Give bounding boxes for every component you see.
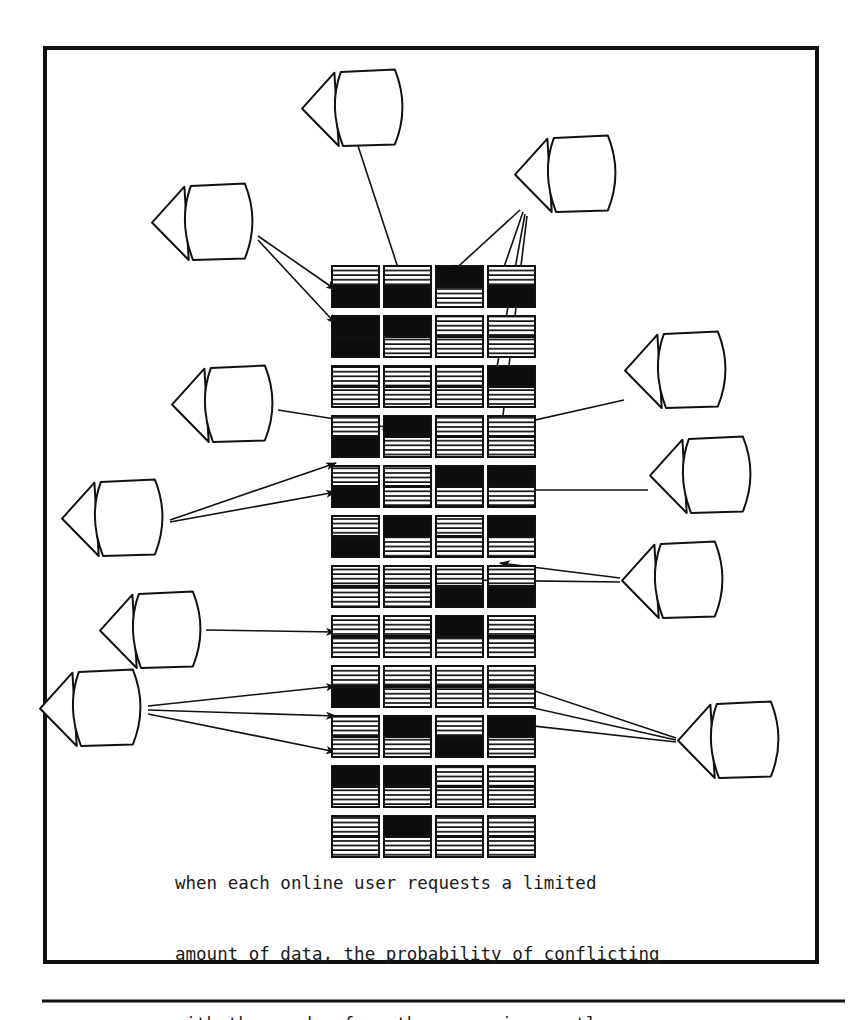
record-cell-r6c2[interactable] — [384, 387, 431, 407]
record-cell-r22c3[interactable] — [436, 787, 483, 807]
record-cell-r4c4[interactable] — [488, 337, 535, 357]
record-cell-r14c4[interactable] — [488, 587, 535, 607]
terminal-9[interactable] — [100, 592, 200, 668]
record-cell-r5c2[interactable] — [384, 366, 431, 386]
record-cell-r19c1[interactable] — [332, 716, 379, 736]
record-cell-r22c1[interactable] — [332, 787, 379, 807]
record-cell-r1c1[interactable] — [332, 266, 379, 286]
record-cell-r1c2[interactable] — [384, 266, 431, 286]
record-cell-r12c4[interactable] — [488, 537, 535, 557]
record-cell-r9c1[interactable] — [332, 466, 379, 486]
record-cell-r16c2[interactable] — [384, 637, 431, 657]
record-cell-r9c2[interactable] — [384, 466, 431, 486]
record-cell-r12c2[interactable] — [384, 537, 431, 557]
terminal-4[interactable] — [625, 332, 725, 408]
record-cell-r5c4[interactable] — [488, 366, 535, 386]
record-cell-r18c2[interactable] — [384, 687, 431, 707]
record-cell-r15c3[interactable] — [436, 616, 483, 636]
record-cell-r8c1[interactable] — [332, 437, 379, 457]
record-cell-r16c3[interactable] — [436, 637, 483, 657]
record-cell-r13c2[interactable] — [384, 566, 431, 586]
record-cell-r19c4[interactable] — [488, 716, 535, 736]
record-cell-r5c1[interactable] — [332, 366, 379, 386]
record-cell-r14c3[interactable] — [436, 587, 483, 607]
record-cell-r21c4[interactable] — [488, 766, 535, 786]
terminal-3[interactable] — [152, 184, 252, 260]
record-cell-r7c4[interactable] — [488, 416, 535, 436]
record-cell-r1c3[interactable] — [436, 266, 483, 286]
record-cell-r17c4[interactable] — [488, 666, 535, 686]
record-cell-r4c2[interactable] — [384, 337, 431, 357]
record-cell-r22c4[interactable] — [488, 787, 535, 807]
record-cell-r15c4[interactable] — [488, 616, 535, 636]
record-cell-r10c2[interactable] — [384, 487, 431, 507]
terminal-1[interactable] — [302, 70, 402, 146]
record-cell-r3c1[interactable] — [332, 316, 379, 336]
terminal-6[interactable] — [650, 437, 750, 513]
record-cell-r9c4[interactable] — [488, 466, 535, 486]
record-cell-r6c1[interactable] — [332, 387, 379, 407]
terminal-2[interactable] — [515, 136, 615, 212]
record-cell-r20c4[interactable] — [488, 737, 535, 757]
record-cell-r18c4[interactable] — [488, 687, 535, 707]
record-cell-r4c3[interactable] — [436, 337, 483, 357]
terminal-5[interactable] — [172, 366, 272, 442]
record-cell-r7c3[interactable] — [436, 416, 483, 436]
record-cell-r1c4[interactable] — [488, 266, 535, 286]
record-cell-r13c1[interactable] — [332, 566, 379, 586]
record-cell-r10c1[interactable] — [332, 487, 379, 507]
record-cell-r9c3[interactable] — [436, 466, 483, 486]
terminal-8[interactable] — [622, 542, 722, 618]
record-cell-r10c4[interactable] — [488, 487, 535, 507]
record-cell-r2c3[interactable] — [436, 287, 483, 307]
record-cell-r14c2[interactable] — [384, 587, 431, 607]
record-cell-r13c3[interactable] — [436, 566, 483, 586]
record-cell-r17c2[interactable] — [384, 666, 431, 686]
record-cell-r19c3[interactable] — [436, 716, 483, 736]
record-cell-r11c2[interactable] — [384, 516, 431, 536]
record-cell-r2c2[interactable] — [384, 287, 431, 307]
record-cell-r21c1[interactable] — [332, 766, 379, 786]
connector-terminal-10-to-record-r19c1 — [148, 686, 336, 706]
terminal-10[interactable] — [40, 670, 140, 746]
record-cell-r16c4[interactable] — [488, 637, 535, 657]
record-cell-r7c2[interactable] — [384, 416, 431, 436]
record-cell-r17c1[interactable] — [332, 666, 379, 686]
record-cell-r12c3[interactable] — [436, 537, 483, 557]
record-cell-r16c1[interactable] — [332, 637, 379, 657]
record-cell-r11c4[interactable] — [488, 516, 535, 536]
record-cell-r3c2[interactable] — [384, 316, 431, 336]
record-cell-r13c4[interactable] — [488, 566, 535, 586]
record-cell-r10c3[interactable] — [436, 487, 483, 507]
record-cell-r19c2[interactable] — [384, 716, 431, 736]
record-cell-r11c1[interactable] — [332, 516, 379, 536]
record-cell-r15c1[interactable] — [332, 616, 379, 636]
record-cell-r22c2[interactable] — [384, 787, 431, 807]
record-cell-r4c1[interactable] — [332, 337, 379, 357]
record-cell-r20c3[interactable] — [436, 737, 483, 757]
record-cell-r15c2[interactable] — [384, 616, 431, 636]
record-cell-r20c1[interactable] — [332, 737, 379, 757]
record-cell-r8c2[interactable] — [384, 437, 431, 457]
record-cell-r14c1[interactable] — [332, 587, 379, 607]
record-cell-r5c3[interactable] — [436, 366, 483, 386]
record-cell-r2c1[interactable] — [332, 287, 379, 307]
record-cell-r21c2[interactable] — [384, 766, 431, 786]
terminal-11[interactable] — [678, 702, 778, 778]
record-cell-r21c3[interactable] — [436, 766, 483, 786]
record-cell-r18c3[interactable] — [436, 687, 483, 707]
record-cell-r18c1[interactable] — [332, 687, 379, 707]
record-cell-r3c3[interactable] — [436, 316, 483, 336]
record-cell-r12c1[interactable] — [332, 537, 379, 557]
record-cell-r20c2[interactable] — [384, 737, 431, 757]
record-cell-r17c3[interactable] — [436, 666, 483, 686]
record-cell-r7c1[interactable] — [332, 416, 379, 436]
terminal-7[interactable] — [62, 480, 162, 556]
record-cell-r6c3[interactable] — [436, 387, 483, 407]
record-cell-r2c4[interactable] — [488, 287, 535, 307]
record-cell-r6c4[interactable] — [488, 387, 535, 407]
record-cell-r11c3[interactable] — [436, 516, 483, 536]
record-cell-r3c4[interactable] — [488, 316, 535, 336]
record-cell-r8c4[interactable] — [488, 437, 535, 457]
record-cell-r8c3[interactable] — [436, 437, 483, 457]
